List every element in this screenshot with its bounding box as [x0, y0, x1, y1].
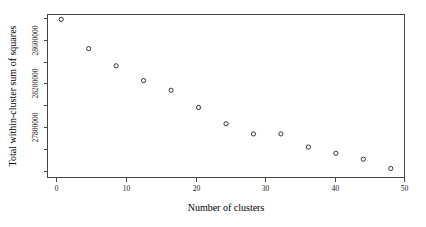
- data-point: [389, 166, 393, 170]
- data-point: [87, 47, 91, 51]
- x-tick-label: 0: [55, 184, 59, 193]
- y-tick-label: 27800000: [31, 112, 40, 142]
- x-tick-label: 20: [193, 184, 201, 193]
- data-point: [306, 145, 310, 149]
- y-tick-label: 28600000: [31, 25, 40, 55]
- y-axis-ticks: [44, 19, 48, 172]
- data-point: [59, 17, 63, 21]
- x-axis-ticks: [57, 178, 405, 182]
- data-point: [334, 151, 338, 155]
- x-axis-title: Number of clusters: [188, 202, 265, 213]
- y-axis-tick-labels: 28600000 28200000 27800000: [31, 25, 40, 142]
- plot-box-border: [48, 15, 405, 178]
- data-point: [196, 105, 200, 109]
- data-point: [251, 132, 255, 136]
- data-point: [361, 157, 365, 161]
- scatter-plot: 28600000 28200000 27800000 0 10 20 30 40…: [0, 0, 426, 227]
- data-point: [224, 122, 228, 126]
- data-point: [279, 132, 283, 136]
- x-tick-label: 50: [401, 184, 409, 193]
- data-point: [169, 88, 173, 92]
- chart-figure: 28600000 28200000 27800000 0 10 20 30 40…: [0, 0, 426, 227]
- y-axis-title: Total within-cluster sum of squares: [7, 25, 18, 166]
- x-tick-label: 40: [332, 184, 340, 193]
- x-tick-label: 10: [123, 184, 131, 193]
- data-point-group: [59, 17, 393, 170]
- data-point: [142, 78, 146, 82]
- x-axis-tick-labels: 0 10 20 30 40 50: [55, 184, 409, 193]
- data-point: [114, 64, 118, 68]
- y-tick-label: 28200000: [31, 68, 40, 98]
- x-tick-label: 30: [262, 184, 270, 193]
